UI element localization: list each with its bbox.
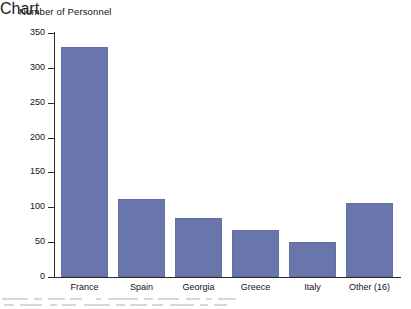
scan-artifact bbox=[218, 298, 236, 300]
bar bbox=[346, 203, 393, 277]
scan-artifact bbox=[108, 298, 138, 300]
scan-artifact bbox=[206, 298, 212, 300]
x-axis-category-label: Spain bbox=[113, 282, 170, 292]
bar bbox=[61, 47, 108, 277]
scan-artifact bbox=[170, 304, 194, 306]
bars-layer: FranceSpainGeorgiaGreeceItalyOther (16) bbox=[0, 0, 411, 309]
scan-artifact bbox=[62, 304, 76, 306]
x-axis-category-label: France bbox=[56, 282, 113, 292]
scan-artifact bbox=[116, 304, 125, 306]
bar bbox=[232, 230, 279, 277]
scan-artifact bbox=[144, 298, 153, 300]
scan-artifact bbox=[84, 304, 110, 306]
scan-artifact bbox=[186, 298, 200, 300]
scan-artifact bbox=[20, 304, 42, 306]
bar-chart: Number of Personnel 35030025020015010050… bbox=[0, 0, 411, 309]
scan-artifact-fragments bbox=[0, 296, 411, 309]
scan-artifact bbox=[96, 298, 101, 300]
scan-artifact bbox=[200, 304, 208, 306]
x-axis-category-label: Italy bbox=[284, 282, 341, 292]
bar bbox=[118, 199, 165, 277]
scan-artifact bbox=[50, 304, 57, 306]
x-axis-category-label: Georgia bbox=[170, 282, 227, 292]
x-axis-category-label: Other (16) bbox=[341, 282, 398, 292]
scan-artifact bbox=[130, 304, 147, 306]
bar bbox=[289, 242, 336, 277]
x-axis-category-label: Greece bbox=[227, 282, 284, 292]
scan-artifact bbox=[152, 304, 163, 306]
bar bbox=[175, 218, 222, 277]
scan-artifact bbox=[158, 298, 179, 300]
scan-artifact bbox=[48, 298, 65, 300]
scan-artifact bbox=[2, 298, 28, 300]
scan-artifact bbox=[4, 304, 14, 306]
scan-artifact bbox=[34, 298, 42, 300]
scan-artifact bbox=[214, 304, 227, 306]
scan-artifact bbox=[70, 298, 82, 300]
